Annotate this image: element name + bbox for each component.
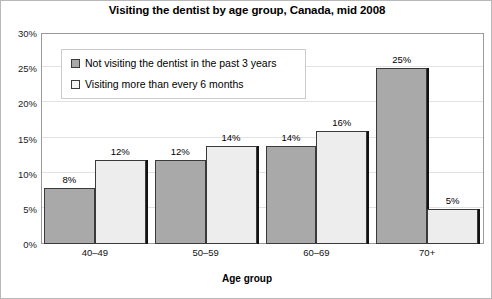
legend-label: Visiting more than every 6 months xyxy=(85,78,244,90)
gridline xyxy=(42,172,483,173)
legend-swatch-icon xyxy=(71,59,80,68)
y-axis: 0%5%10%15%20%25%30% xyxy=(1,33,37,244)
y-axis-tick-label: 30% xyxy=(3,28,37,39)
x-axis: 40–4950–5960–6970+ xyxy=(41,247,484,265)
y-axis-tick-label: 25% xyxy=(3,63,37,74)
chart-title: Visiting the dentist by age group, Canad… xyxy=(1,4,492,16)
legend-swatch-icon xyxy=(71,80,80,89)
bar-chart: Visiting the dentist by age group, Canad… xyxy=(0,0,492,299)
y-axis-tick-label: 5% xyxy=(3,203,37,214)
y-axis-tick-label: 10% xyxy=(3,168,37,179)
x-axis-tick-label: 50–59 xyxy=(192,247,218,258)
y-axis-tick-label: 15% xyxy=(3,133,37,144)
gridline xyxy=(42,207,483,208)
x-axis-tick-label: 60–69 xyxy=(303,247,329,258)
x-axis-title: Age group xyxy=(1,273,492,284)
y-axis-tick-label: 0% xyxy=(3,239,37,250)
legend-item-series-1[interactable]: Visiting more than every 6 months xyxy=(71,78,244,90)
y-axis-tick-label: 20% xyxy=(3,98,37,109)
x-axis-tick-label: 40–49 xyxy=(82,247,108,258)
chart-legend: Not visiting the dentist in the past 3 y… xyxy=(61,49,306,99)
gridline xyxy=(42,101,483,102)
legend-label: Not visiting the dentist in the past 3 y… xyxy=(85,57,276,69)
legend-item-series-0[interactable]: Not visiting the dentist in the past 3 y… xyxy=(71,57,276,69)
gridline xyxy=(42,137,483,138)
x-axis-tick-label: 70+ xyxy=(419,247,435,258)
